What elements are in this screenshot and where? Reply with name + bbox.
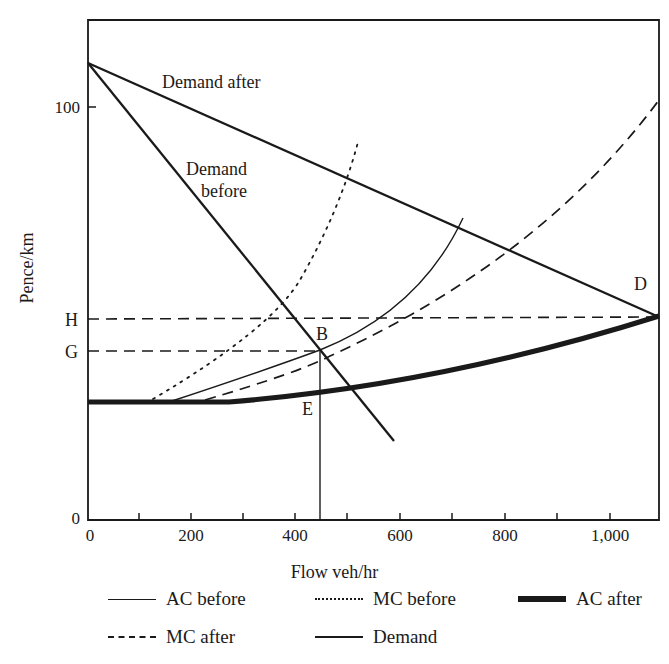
series-demand-before [88, 63, 394, 441]
y-level-G: G [65, 342, 78, 362]
legend-swatch-dashed [108, 636, 156, 638]
legend-item-mc-before: MC before [315, 588, 456, 610]
legend-item-ac-after: AC after [518, 588, 642, 610]
y-axis-label: Pence/km [17, 233, 37, 304]
y-level-H: H [65, 310, 78, 330]
legend-label: AC after [576, 588, 642, 610]
series-demand-after [88, 63, 659, 317]
x-tick-0: 0 [86, 526, 95, 545]
legend-swatch-solid [315, 636, 363, 638]
legend: AC before MC before AC after MC after De… [0, 588, 669, 664]
x-tick-200: 200 [178, 526, 204, 545]
plot-frame [88, 20, 659, 520]
legend-label: AC before [166, 588, 246, 610]
series-ac-after [88, 316, 659, 402]
legend-item-mc-after: MC after [108, 626, 235, 648]
annotation-D: D [634, 274, 647, 294]
x-tick-800: 800 [492, 526, 518, 545]
legend-label: Demand [373, 626, 437, 648]
x-axis-label: Flow veh/hr [0, 562, 669, 583]
y-tick-100: 100 [55, 98, 81, 117]
legend-swatch-dotted [315, 598, 363, 600]
y-tick-0: 0 [72, 509, 81, 528]
x-ticks [88, 107, 610, 520]
legend-item-ac-before: AC before [108, 588, 246, 610]
x-tick-400: 400 [282, 526, 308, 545]
h-reference-line [88, 317, 659, 319]
legend-label: MC before [373, 588, 456, 610]
legend-label: MC after [166, 626, 235, 648]
annotation-demand-before-line1: Demand [186, 159, 247, 179]
annotation-E: E [302, 399, 313, 419]
series-ac-before [172, 218, 463, 401]
x-tick-600: 600 [387, 526, 413, 545]
legend-item-demand: Demand [315, 626, 437, 648]
annotation-B: B [316, 324, 328, 344]
legend-swatch-solid-thin [108, 599, 156, 600]
annotation-demand-after: Demand after [162, 72, 260, 92]
x-tick-1000: 1,000 [591, 526, 629, 545]
annotation-demand-before-line2: before [201, 181, 247, 201]
legend-swatch-thick [518, 596, 566, 602]
x-tick-labels: 0 200 400 600 800 1,000 [86, 526, 629, 545]
